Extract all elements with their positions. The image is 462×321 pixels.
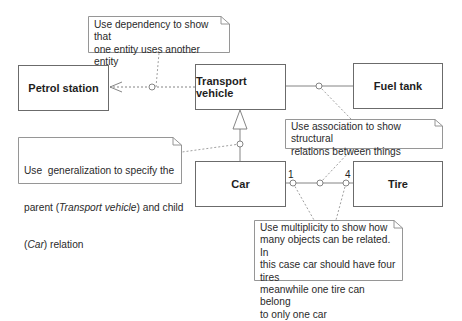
note-line: (Car) relation — [24, 239, 176, 251]
multiplicity-note-anchor-1 — [293, 183, 314, 220]
note-association: Use association to show structural relat… — [285, 119, 443, 149]
multiplicity-car-end: 1 — [288, 169, 294, 180]
note-line: this case car should have four tires — [260, 259, 397, 284]
class-tire[interactable]: Tire — [353, 161, 443, 207]
class-transport-vehicle[interactable]: Transport vehicle — [195, 64, 286, 110]
anchor-circle-icon — [290, 180, 296, 186]
note-line: many objects can be related. In — [260, 234, 397, 259]
note-line: Use generalization to specify the — [24, 165, 176, 177]
class-label: Fuel tank — [374, 80, 422, 92]
generalization-link — [233, 110, 247, 161]
note-line: Use association to show structural — [291, 121, 437, 146]
note-generalization: Use generalization to specify the parent… — [18, 137, 182, 184]
class-label: Car — [231, 178, 249, 190]
note-line: meanwhile one tire can belong — [260, 284, 397, 309]
anchor-circle-icon — [316, 83, 322, 89]
note-line: to only one car — [260, 309, 397, 321]
class-label: Tire — [388, 178, 408, 190]
class-car[interactable]: Car — [195, 161, 286, 207]
generalization-note-anchor — [182, 144, 240, 152]
note-line: Use multiplicity to show how — [260, 222, 397, 234]
note-line: one entity uses another entity — [94, 44, 224, 69]
class-petrol-station[interactable]: Petrol station — [18, 65, 109, 111]
anchor-circle-icon — [149, 84, 155, 90]
multiplicity-note-anchor-4 — [336, 183, 346, 220]
class-fuel-tank[interactable]: Fuel tank — [353, 63, 443, 109]
note-line: parent (Transport vehicle) and child — [24, 202, 176, 214]
note-line: relations between things — [291, 146, 437, 158]
association-note-anchor — [319, 86, 351, 119]
note-dependency: Use dependency to show that one entity u… — [88, 16, 230, 53]
class-label: Transport vehicle — [196, 75, 285, 99]
multiplicity-tire-end: 4 — [345, 169, 351, 180]
class-label: Petrol station — [28, 82, 98, 94]
anchor-circle-icon — [317, 180, 323, 186]
anchor-circle-icon — [237, 141, 243, 147]
note-multiplicity: Use multiplicity to show how many object… — [254, 220, 403, 281]
anchor-circle-icon — [343, 180, 349, 186]
note-line: Use dependency to show that — [94, 19, 224, 44]
